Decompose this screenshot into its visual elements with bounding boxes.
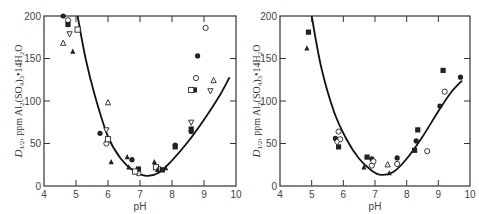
y-tick-label: 200	[24, 11, 41, 22]
y-axis-label: D1/2, ppm Al2(SO4)3•14H2O	[250, 44, 264, 158]
data-point-filled-square	[306, 30, 311, 35]
data-point-open-triangle	[105, 100, 110, 105]
data-point-filled-circle	[195, 53, 200, 58]
data-point-filled-circle	[61, 13, 66, 18]
x-tick-label: 10	[230, 189, 242, 200]
data-point-open-circle	[336, 129, 341, 134]
data-point-open-square	[189, 87, 194, 92]
data-point-open-square	[133, 169, 138, 174]
plot-frame	[44, 16, 236, 186]
chart-figure: 45678910050100150200pHD1/2, ppm Al2(SO4)…	[0, 0, 479, 214]
y-tick-label: 200	[260, 11, 277, 22]
data-point-filled-triangle	[70, 49, 75, 54]
data-point-filled-square	[415, 127, 420, 132]
data-point-filled-square	[412, 148, 417, 153]
fit-curve	[312, 16, 462, 175]
y-tick-label: 0	[271, 181, 277, 192]
x-tick-label: 8	[169, 189, 175, 200]
x-tick-label: 10	[464, 189, 476, 200]
data-point-open-circle	[442, 89, 447, 94]
data-point-open-square	[75, 27, 80, 32]
data-point-open-triangle	[61, 40, 66, 45]
data-point-filled-triangle	[152, 159, 157, 164]
x-tick-label: 9	[201, 189, 207, 200]
x-tick-label: 9	[436, 189, 442, 200]
data-point-filled-circle	[458, 75, 463, 80]
x-tick-label: 4	[41, 189, 47, 200]
data-point-open-circle	[425, 149, 430, 154]
x-tick-label: 7	[372, 189, 378, 200]
data-point-open-inverted-triangle	[208, 89, 213, 94]
data-point-open-inverted-triangle	[67, 32, 72, 37]
data-point-filled-triangle	[109, 159, 114, 164]
x-tick-label: 5	[309, 189, 315, 200]
x-axis-label: pH	[134, 201, 147, 212]
data-point-open-triangle	[211, 78, 216, 83]
y-tick-label: 50	[30, 138, 42, 149]
data-point-open-triangle	[385, 162, 390, 167]
y-axis-label: D1/2, ppm Al2(SO4)3•14H2O	[12, 44, 26, 158]
data-point-filled-square	[364, 155, 369, 160]
x-axis-label: pH	[369, 201, 382, 212]
data-point-filled-triangle	[304, 45, 309, 50]
data-point-open-circle	[203, 25, 208, 30]
y-tick-label: 150	[24, 53, 41, 64]
x-tick-label: 8	[404, 189, 410, 200]
data-point-open-circle	[371, 159, 376, 164]
x-tick-label: 4	[277, 189, 283, 200]
x-tick-label: 5	[73, 189, 79, 200]
data-point-open-inverted-triangle	[189, 120, 194, 125]
left-panel: 45678910050100150200pHD1/2, ppm Al2(SO4)…	[12, 11, 242, 213]
x-tick-label: 6	[105, 189, 111, 200]
data-point-open-inverted-triangle	[104, 128, 109, 133]
y-tick-label: 100	[24, 96, 41, 107]
data-point-filled-circle	[129, 157, 134, 162]
data-point-filled-square	[189, 126, 194, 131]
data-point-open-circle	[395, 161, 400, 166]
data-point-open-square	[105, 137, 110, 142]
data-point-filled-circle	[414, 138, 419, 143]
data-point-filled-triangle	[125, 154, 130, 159]
data-point-filled-circle	[97, 131, 102, 136]
data-point-open-circle	[193, 75, 198, 80]
y-tick-label: 0	[35, 181, 41, 192]
data-point-filled-circle	[395, 155, 400, 160]
data-point-filled-square	[440, 68, 445, 73]
data-point-filled-square	[173, 144, 178, 149]
x-tick-label: 7	[137, 189, 143, 200]
data-point-filled-square	[65, 22, 70, 27]
fit-curve	[78, 16, 230, 176]
right-panel: 45678910050100150200pHD1/2, ppm Al2(SO4)…	[250, 11, 476, 213]
y-tick-label: 50	[266, 138, 278, 149]
data-point-filled-circle	[437, 104, 442, 109]
x-tick-label: 6	[341, 189, 347, 200]
